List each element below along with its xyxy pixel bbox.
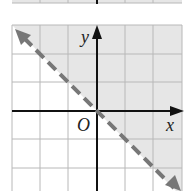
inequality-graph: y x O [0,0,190,191]
x-axis-label: x [165,115,174,135]
origin-label: O [77,115,90,135]
previous-figure-remnant [12,0,182,4]
y-axis-label: y [79,27,89,47]
